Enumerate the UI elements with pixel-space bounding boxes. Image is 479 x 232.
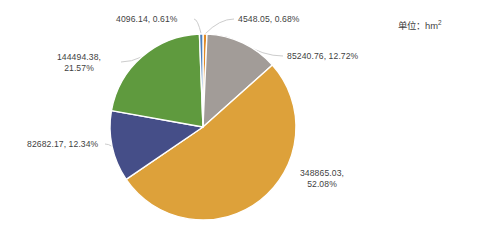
pie-slice-label-line: 4548.05, 0.68% (238, 14, 300, 25)
unit-exponent: 2 (438, 19, 442, 26)
pie-slice-label: 85240.76, 12.72% (287, 51, 358, 62)
unit-text: 单位：hm (398, 20, 438, 31)
pie-slice-label: 4548.05, 0.68% (238, 14, 300, 25)
pie-slice-label-line: 144494.38, (34, 52, 124, 63)
pie-slice-label: 348865.03,52.08% (277, 168, 367, 189)
pie-chart: 4548.05, 0.68%85240.76, 12.72%348865.03,… (0, 0, 479, 232)
pie-slice-label-line: 348865.03, (277, 168, 367, 179)
pie-chart-canvas (0, 0, 479, 232)
pie-slice-label: 144494.38,21.57% (34, 52, 124, 73)
pie-slice-label: 82682.17, 12.34% (27, 139, 98, 150)
leader-line (205, 19, 234, 34)
pie-slice-label: 4096.14, 0.61% (116, 14, 178, 25)
pie-slice-label-line: 85240.76, 12.72% (287, 51, 358, 62)
pie-slice-label-line: 52.08% (277, 179, 367, 190)
pie-slice-label-line: 21.57% (34, 63, 124, 74)
pie-slice-label-line: 4096.14, 0.61% (116, 14, 178, 25)
pie-slice[interactable] (111, 34, 203, 127)
leader-line (194, 19, 201, 34)
unit-label: 单位：hm2 (398, 18, 442, 32)
pie-slice-label-line: 82682.17, 12.34% (27, 139, 98, 150)
